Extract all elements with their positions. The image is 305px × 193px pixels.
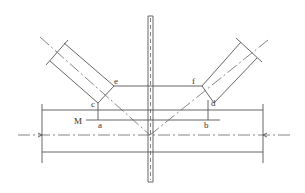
label-d: d bbox=[211, 98, 216, 108]
horizontal-main bbox=[18, 104, 290, 163]
pipe-junction-diagram: M a b c d e f bbox=[0, 0, 305, 193]
vertical-pipe bbox=[148, 16, 153, 182]
label-c: c bbox=[91, 99, 95, 109]
label-e: e bbox=[114, 76, 118, 86]
label-M: M bbox=[74, 116, 82, 126]
label-b: b bbox=[204, 120, 209, 130]
label-f: f bbox=[192, 76, 195, 86]
label-a: a bbox=[98, 120, 102, 130]
